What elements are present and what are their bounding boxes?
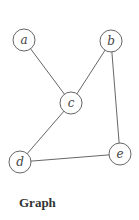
- node-d: d: [9, 151, 31, 173]
- node-label: d: [16, 155, 24, 169]
- node-label: c: [68, 96, 75, 110]
- node-label: b: [107, 34, 115, 48]
- graph-diagram: abcde: [0, 0, 139, 220]
- node-b: b: [100, 30, 122, 52]
- edge-a-c: [24, 40, 71, 103]
- node-a: a: [13, 29, 35, 51]
- edge-d-e: [20, 154, 120, 162]
- node-c: c: [60, 92, 82, 114]
- node-label: e: [116, 147, 123, 161]
- node-label: a: [20, 33, 27, 47]
- nodes: abcde: [9, 29, 131, 173]
- edge-b-e: [111, 41, 120, 154]
- graph-caption: Graph: [19, 195, 56, 211]
- edge-c-d: [20, 103, 71, 162]
- node-e: e: [109, 143, 131, 165]
